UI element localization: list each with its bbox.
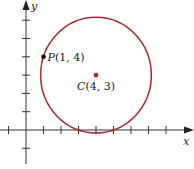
y-axis-label: y	[30, 0, 38, 13]
point-p-label: P(1, 4)	[47, 51, 85, 64]
circle-diagram: y x P(1, 4) C(4, 3)	[0, 0, 194, 169]
labels: y x P(1, 4) C(4, 3)	[30, 0, 190, 148]
point-c-label: C(4, 3)	[77, 80, 115, 93]
point-c	[94, 73, 99, 78]
x-axis-arrow-icon	[184, 127, 194, 134]
shapes	[41, 17, 152, 133]
x-axis-label: x	[183, 135, 190, 148]
y-axis-arrow-icon	[23, 0, 30, 10]
point-p	[41, 55, 46, 60]
